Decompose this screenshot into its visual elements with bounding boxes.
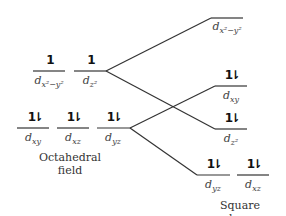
orbital-label: dyz (205, 178, 221, 193)
electron-pair-arrow: 1⇂ (207, 157, 219, 171)
electron-arrow: 1 (87, 53, 92, 67)
square-planar-caption: Square planar field (217, 199, 263, 216)
octahedral-caption: Octahedral field (39, 151, 101, 177)
orbital-label: dz² (83, 74, 97, 89)
correlation-line (130, 128, 197, 175)
orbital-label: dxy (25, 131, 41, 146)
correlation-line (106, 71, 215, 129)
orbital-label: dxz (65, 131, 81, 146)
electron-pair-arrow: 1⇂ (225, 68, 237, 82)
electron-pair-arrow: 1⇂ (247, 157, 259, 171)
correlation-line (106, 18, 211, 71)
orbital-label: dx²−y² (212, 20, 241, 35)
orbital-label: dx²−y² (34, 74, 63, 89)
orbital-label: dxy (223, 89, 239, 104)
orbital-label: dyz (105, 131, 121, 146)
orbital-label: dxz (245, 178, 261, 193)
electron-pair-arrow: 1⇂ (225, 111, 237, 125)
electron-pair-arrow: 1⇂ (28, 110, 40, 124)
electron-pair-arrow: 1⇂ (67, 110, 79, 124)
electron-arrow: 1 (46, 53, 51, 67)
splitting-diagram-lines (0, 0, 286, 216)
electron-pair-arrow: 1⇂ (107, 110, 119, 124)
orbital-label: dz² (224, 132, 238, 147)
